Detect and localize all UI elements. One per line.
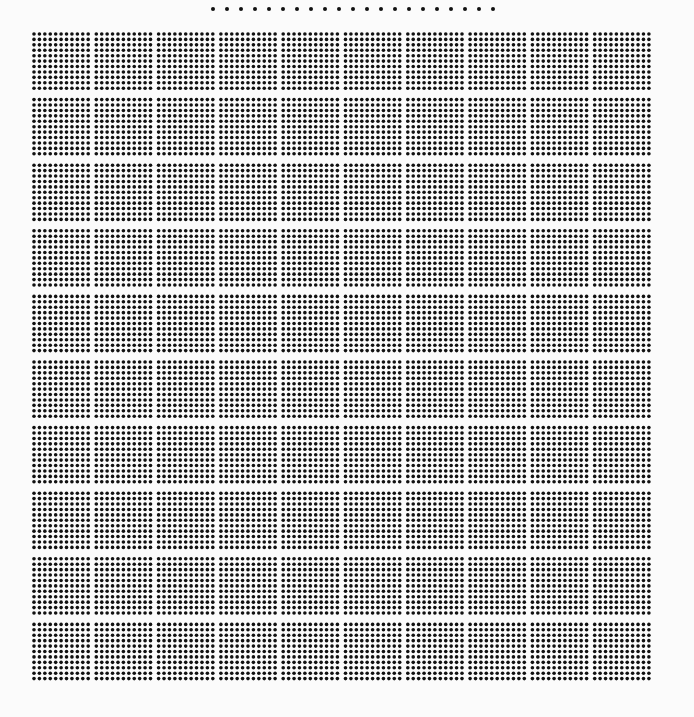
dot-block <box>346 231 404 289</box>
dot-block <box>595 296 653 354</box>
pattern-stage <box>0 0 694 717</box>
dot-block <box>470 231 528 289</box>
dot-block <box>595 165 653 223</box>
dot-block <box>532 493 590 551</box>
dot-block <box>221 559 279 617</box>
dot-block <box>532 100 590 158</box>
dot-block <box>96 100 154 158</box>
dot-block <box>96 428 154 486</box>
dot-block <box>221 624 279 682</box>
dot-block-matrix <box>34 34 658 690</box>
dot-block <box>346 34 404 92</box>
dot-block <box>283 165 341 223</box>
dot-block <box>221 231 279 289</box>
dot-block <box>34 428 92 486</box>
dot-block <box>159 362 217 420</box>
dot-block <box>408 231 466 289</box>
dot-block <box>34 624 92 682</box>
dot-block <box>470 362 528 420</box>
dot-block <box>346 165 404 223</box>
dot-block <box>283 559 341 617</box>
dot-block <box>34 100 92 158</box>
dot-block <box>159 559 217 617</box>
dot-block <box>34 559 92 617</box>
dot-block <box>159 100 217 158</box>
dot-block <box>283 296 341 354</box>
dot-block <box>408 428 466 486</box>
dot-block <box>346 624 404 682</box>
dot-block <box>96 34 154 92</box>
dot-block <box>532 362 590 420</box>
top-dot-row <box>209 5 497 13</box>
dot-block <box>346 428 404 486</box>
dot-block <box>283 100 341 158</box>
dot-block <box>346 296 404 354</box>
dot-block <box>221 428 279 486</box>
dot-block <box>283 231 341 289</box>
dot-block <box>470 559 528 617</box>
dot-block <box>346 362 404 420</box>
dot-block <box>221 296 279 354</box>
dot-block <box>34 34 92 92</box>
dot-block <box>532 428 590 486</box>
dot-block <box>283 624 341 682</box>
dot-block <box>408 100 466 158</box>
dot-block <box>96 362 154 420</box>
dot-block <box>34 165 92 223</box>
dot-block <box>470 428 528 486</box>
dot-block <box>408 493 466 551</box>
dot-block <box>34 493 92 551</box>
dot-block <box>96 165 154 223</box>
dot-block <box>96 624 154 682</box>
dot-block <box>595 428 653 486</box>
dot-block <box>595 100 653 158</box>
dot-block <box>470 100 528 158</box>
dot-block <box>159 428 217 486</box>
dot-block <box>346 100 404 158</box>
dot-block <box>532 559 590 617</box>
dot-block <box>595 362 653 420</box>
dot-block <box>595 34 653 92</box>
dot-block <box>159 296 217 354</box>
dot-block <box>283 493 341 551</box>
dot-block <box>470 34 528 92</box>
dot-block <box>346 493 404 551</box>
dot-block <box>532 296 590 354</box>
dot-block <box>408 34 466 92</box>
dot-block <box>96 559 154 617</box>
dot-block <box>532 165 590 223</box>
dot-block <box>221 34 279 92</box>
dot-block <box>96 231 154 289</box>
dot-block <box>283 362 341 420</box>
dot-block <box>159 624 217 682</box>
dot-block <box>408 559 466 617</box>
dot-block <box>283 428 341 486</box>
dot-block <box>408 296 466 354</box>
dot-block <box>96 493 154 551</box>
dot-block <box>532 624 590 682</box>
dot-block <box>159 231 217 289</box>
dot-block <box>532 34 590 92</box>
dot-block <box>159 493 217 551</box>
dot-block <box>470 624 528 682</box>
dot-block <box>34 362 92 420</box>
dot-block <box>408 165 466 223</box>
dot-block <box>408 624 466 682</box>
dot-block <box>221 100 279 158</box>
dot-block <box>221 493 279 551</box>
dot-block <box>159 34 217 92</box>
dot-block <box>595 559 653 617</box>
dot-block <box>221 362 279 420</box>
dot-block <box>159 165 217 223</box>
dot-block <box>408 362 466 420</box>
dot-block <box>532 231 590 289</box>
dot-block <box>34 231 92 289</box>
dot-block <box>283 34 341 92</box>
dot-block <box>346 559 404 617</box>
dot-block <box>595 231 653 289</box>
dot-block <box>595 624 653 682</box>
dot-block <box>96 296 154 354</box>
dot-block <box>470 493 528 551</box>
dot-block <box>34 296 92 354</box>
dot-block <box>595 493 653 551</box>
